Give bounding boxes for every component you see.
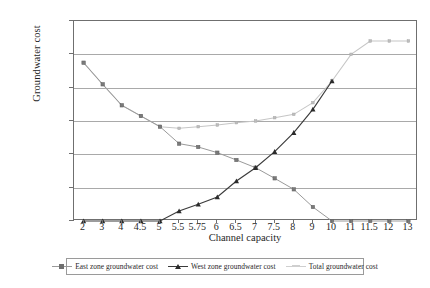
legend-label-west: West zone groundwater cost	[191, 262, 276, 271]
square-marker-icon	[311, 205, 314, 208]
square-marker-icon	[254, 120, 257, 123]
square-marker-icon	[216, 151, 219, 154]
series-total-groundwater-cost	[82, 40, 409, 130]
x-axis-tick-label: 8	[290, 222, 295, 232]
square-marker-icon	[216, 124, 219, 127]
square-marker-icon	[312, 101, 315, 104]
x-axis-tick-label: 7.5	[267, 222, 280, 232]
groundwater-cost-chart: Groundwater cost 01000002000003000004000…	[0, 0, 430, 288]
series-line	[84, 81, 332, 221]
x-axis-tick-label: 13	[402, 222, 412, 232]
square-marker-icon	[388, 40, 391, 43]
line-marker-icon	[286, 263, 306, 271]
x-axis-tick-label: 7	[252, 222, 257, 232]
series-east-zone-groundwater-cost	[82, 61, 410, 223]
series-layer	[74, 21, 418, 221]
x-axis-tick-label: 2	[80, 222, 85, 232]
square-marker-icon	[273, 177, 276, 180]
series-west-zone-groundwater-cost	[81, 78, 335, 223]
square-marker-icon	[52, 263, 72, 271]
x-axis-title: Channel capacity	[73, 232, 417, 243]
triangle-marker-icon	[168, 263, 188, 271]
square-marker-icon	[273, 116, 276, 119]
series-line	[84, 63, 409, 221]
x-axis-tick-label: 4.5	[134, 222, 147, 232]
legend-label-total: Total groundwater cost	[309, 262, 378, 271]
square-marker-icon	[158, 125, 161, 128]
x-axis-tick-label: 11.5	[361, 222, 378, 232]
legend-label-east: East zone groundwater cost	[75, 262, 158, 271]
square-marker-icon	[292, 188, 295, 191]
x-axis-tick-label: 9	[309, 222, 314, 232]
plot-area	[73, 20, 417, 220]
chart-legend: East zone groundwater cost West zone gro…	[66, 258, 364, 275]
legend-item-east: East zone groundwater cost	[52, 262, 158, 271]
square-marker-icon	[407, 40, 410, 43]
square-marker-icon	[292, 113, 295, 116]
square-marker-icon	[197, 145, 200, 148]
square-marker-icon	[178, 127, 181, 130]
x-axis-tick-label: 11	[345, 222, 355, 232]
x-axis-tick-label: 6	[214, 222, 219, 232]
square-marker-icon	[120, 104, 123, 107]
y-axis-title: Groundwater cost	[31, 0, 42, 144]
legend-item-west: West zone groundwater cost	[168, 262, 276, 271]
x-axis-tick-label: 5.5	[172, 222, 185, 232]
square-marker-icon	[101, 83, 104, 86]
x-axis-tick-label: 6.5	[229, 222, 242, 232]
square-marker-icon	[197, 125, 200, 128]
series-line	[84, 41, 409, 128]
x-axis-tick-label: 5	[157, 222, 162, 232]
x-axis-tick-label: 4	[118, 222, 123, 232]
square-marker-icon	[177, 142, 180, 145]
square-marker-icon	[350, 53, 353, 56]
square-marker-icon	[139, 114, 142, 117]
square-marker-icon	[235, 121, 238, 124]
x-axis-tick-label: 3	[99, 222, 104, 232]
square-marker-icon	[235, 158, 238, 161]
square-marker-icon	[369, 40, 372, 43]
legend-item-total: Total groundwater cost	[286, 262, 378, 271]
x-axis-tick-label: 10	[326, 222, 336, 232]
x-axis-tick-label: 12	[383, 222, 393, 232]
square-marker-icon	[82, 61, 85, 64]
x-axis-tick-label: 5.75	[188, 222, 206, 232]
